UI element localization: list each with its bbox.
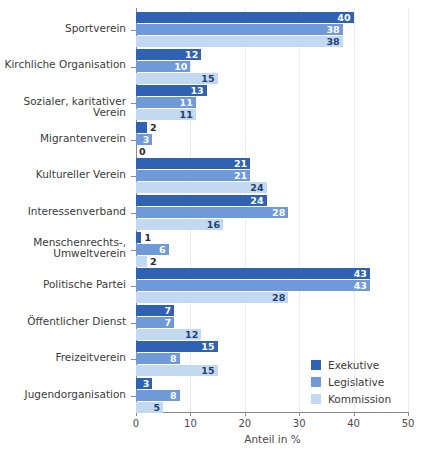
bar-value-label: 21 (232, 158, 247, 169)
bar-row: 11 (136, 109, 408, 120)
bar-row: 16 (136, 219, 408, 230)
category-label: Kirchliche Organisation (0, 59, 126, 71)
bar-row: 15 (136, 73, 408, 84)
bar-row: 2 (136, 256, 408, 267)
bar-value-label: 15 (200, 73, 215, 84)
legend-label: Exekutive (328, 359, 379, 371)
category-group: Migrantenverein230 (0, 122, 423, 161)
bar-row: 28 (136, 207, 408, 218)
bar-row: 40 (136, 12, 408, 23)
bar[interactable] (136, 280, 370, 291)
bar[interactable] (136, 232, 141, 243)
category-group: Sportverein403838 (0, 12, 423, 51)
legend-item[interactable]: Exekutive (311, 357, 391, 372)
x-tick-label: 30 (293, 418, 306, 429)
category-label: Politische Partei (0, 279, 126, 291)
bar-value-label: 2 (150, 256, 157, 267)
bar-row: 12 (136, 49, 408, 60)
bar-value-label: 24 (249, 182, 264, 193)
bar-row: 3 (136, 134, 408, 145)
bar-value-label: 12 (183, 49, 198, 60)
category-group: Interessenverband242816 (0, 195, 423, 234)
bar-value-label: 28 (270, 292, 285, 303)
bar[interactable] (136, 182, 267, 193)
x-tick-label: 0 (133, 418, 139, 429)
legend-item[interactable]: Kommission (311, 391, 391, 406)
legend: ExekutiveLegislativeKommission (311, 357, 391, 408)
bar-row: 38 (136, 36, 408, 47)
bar-value-label: 40 (336, 12, 351, 23)
bar-value-label: 2 (150, 122, 157, 133)
legend-swatch-icon (311, 360, 321, 370)
category-label: Jugendorganisation (0, 389, 126, 401)
bar-row: 21 (136, 170, 408, 181)
bar-value-label: 0 (139, 146, 146, 157)
bar-value-label: 24 (249, 195, 264, 206)
bar-value-label: 21 (232, 170, 247, 181)
x-tick-label: 10 (184, 418, 197, 429)
bar-value-label: 1 (144, 232, 151, 243)
bar-value-label: 16 (205, 219, 220, 230)
bar-value-label: 13 (189, 85, 204, 96)
bar-row: 24 (136, 182, 408, 193)
bar-value-label: 3 (140, 378, 149, 389)
category-label: Freizeitverein (0, 352, 126, 364)
bar[interactable] (136, 122, 147, 133)
bar-row: 15 (136, 341, 408, 352)
category-group: Menschenrechts-, Umweltverein162 (0, 232, 423, 271)
bar-row: 1 (136, 232, 408, 243)
bar-value-label: 10 (172, 61, 187, 72)
bar-value-label: 38 (325, 24, 340, 35)
bar[interactable] (136, 24, 343, 35)
category-group: Politische Partei434328 (0, 268, 423, 307)
bar-row: 2 (136, 122, 408, 133)
category-group: Sozialer, karitativer Verein131111 (0, 85, 423, 124)
bar[interactable] (136, 207, 288, 218)
bar-value-label: 38 (325, 36, 340, 47)
category-label: Menschenrechts-, Umweltverein (0, 237, 126, 260)
bar[interactable] (136, 256, 147, 267)
bar-value-label: 8 (168, 390, 177, 401)
bar-value-label: 12 (183, 329, 198, 340)
bar-value-label: 7 (162, 305, 171, 316)
bar-row: 24 (136, 195, 408, 206)
x-axis-label: Anteil in % (136, 433, 409, 445)
bar-value-label: 3 (140, 134, 149, 145)
legend-item[interactable]: Legislative (311, 374, 391, 389)
bar-row: 11 (136, 97, 408, 108)
bar-value-label: 11 (178, 109, 193, 120)
bar-value-label: 15 (200, 341, 215, 352)
legend-label: Kommission (328, 393, 391, 405)
bar-value-label: 5 (151, 402, 160, 413)
bar-row: 6 (136, 244, 408, 255)
bar-row: 28 (136, 292, 408, 303)
bar[interactable] (136, 268, 370, 279)
bar-row: 7 (136, 305, 408, 316)
bar[interactable] (136, 12, 354, 23)
bar-row: 21 (136, 158, 408, 169)
bar[interactable] (136, 195, 267, 206)
bar[interactable] (136, 36, 343, 47)
bar-row: 7 (136, 317, 408, 328)
category-label: Kultureller Verein (0, 169, 126, 181)
bar-value-label: 43 (352, 280, 367, 291)
legend-swatch-icon (311, 394, 321, 404)
x-tick-label: 20 (238, 418, 251, 429)
category-group: Kirchliche Organisation121015 (0, 49, 423, 88)
x-tick-label: 40 (347, 418, 360, 429)
category-label: Sportverein (0, 23, 126, 35)
bar-row: 43 (136, 268, 408, 279)
bar-row: 0 (136, 146, 408, 157)
x-tick-label: 50 (402, 418, 415, 429)
bar-value-label: 8 (168, 353, 177, 364)
bar-chart: 01020304050 Sportverein403838Kirchliche … (0, 0, 423, 449)
legend-label: Legislative (328, 376, 384, 388)
category-label: Interessenverband (0, 206, 126, 218)
bar-value-label: 7 (162, 317, 171, 328)
bar-value-label: 11 (178, 97, 193, 108)
legend-swatch-icon (311, 377, 321, 387)
bar-row: 38 (136, 24, 408, 35)
bar[interactable] (136, 292, 288, 303)
bar-value-label: 15 (200, 365, 215, 376)
bar-value-label: 6 (157, 244, 166, 255)
